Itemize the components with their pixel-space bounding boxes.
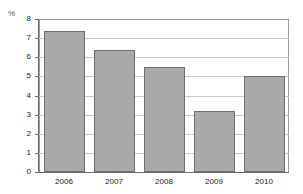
y-tick-mark	[35, 76, 38, 77]
bar-chart: % 012345678 20062007200820092010	[0, 0, 303, 194]
x-tick-label: 2006	[44, 178, 84, 186]
x-axis-line	[38, 172, 289, 173]
y-axis-unit-label: %	[8, 9, 15, 18]
y-tick-label: 0	[17, 168, 31, 176]
bar	[194, 111, 235, 172]
y-tick-mark	[35, 172, 38, 173]
y-tick-label: 4	[17, 92, 31, 100]
y-tick-mark	[35, 19, 38, 20]
y-tick-mark	[35, 96, 38, 97]
y-tick-mark	[35, 134, 38, 135]
x-tick-label: 2007	[94, 178, 134, 186]
y-tick-label: 3	[17, 111, 31, 119]
x-tick-label: 2010	[244, 178, 284, 186]
y-tick-mark	[35, 153, 38, 154]
y-tick-label: 8	[17, 15, 31, 23]
bar	[44, 31, 85, 172]
bar	[94, 50, 135, 172]
y-tick-label: 2	[17, 130, 31, 138]
y-tick-label: 1	[17, 149, 31, 157]
y-tick-mark	[35, 115, 38, 116]
bar	[244, 76, 285, 172]
y-tick-mark	[35, 38, 38, 39]
y-tick-label: 5	[17, 72, 31, 80]
bar	[144, 67, 185, 172]
y-tick-mark	[35, 57, 38, 58]
y-tick-label: 6	[17, 53, 31, 61]
x-tick-label: 2009	[194, 178, 234, 186]
y-axis-line	[38, 19, 39, 173]
y-tick-label: 7	[17, 34, 31, 42]
x-tick-label: 2008	[144, 178, 184, 186]
